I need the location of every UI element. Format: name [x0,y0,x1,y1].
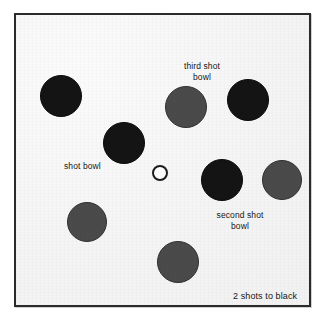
label-second-shot-bowl-line1: second shot [194,210,286,221]
bowl-grey-3[interactable] [67,202,107,242]
bowl-black-3[interactable] [227,79,269,121]
label-second-shot-bowl: second shot bowl [194,210,286,231]
bowl-black-2-shot-bowl[interactable] [103,122,145,164]
jack-icon[interactable] [152,165,168,181]
bowl-black-1[interactable] [40,75,82,117]
bowl-grey-4[interactable] [157,241,199,283]
bowl-grey-1-third-shot-bowl[interactable] [165,86,207,128]
caption-shots-to-black: 2 shots to black [233,291,297,302]
label-shot-bowl-text: shot bowl [64,161,134,172]
label-third-shot-bowl: third shot bowl [158,61,246,82]
rink-frame: third shot bowl shot bowl second shot bo… [14,13,311,307]
label-second-shot-bowl-line2: bowl [194,221,286,232]
bowl-grey-2[interactable] [262,160,302,200]
label-shot-bowl: shot bowl [64,161,134,172]
bowls-diagram: third shot bowl shot bowl second shot bo… [0,0,326,319]
label-third-shot-bowl-line1: third shot [158,61,246,72]
label-third-shot-bowl-line2: bowl [158,72,246,83]
bowl-black-4-second-shot-bowl[interactable] [201,159,243,201]
